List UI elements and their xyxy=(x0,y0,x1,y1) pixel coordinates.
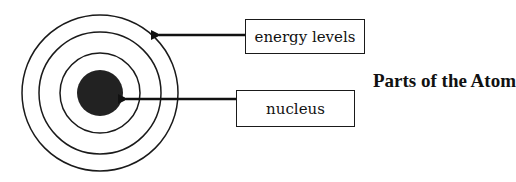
nucleus-shape xyxy=(77,70,123,116)
diagram-title: Parts of the Atom xyxy=(373,70,516,92)
energy-levels-label: energy levels xyxy=(255,28,356,46)
nucleus-label: nucleus xyxy=(266,100,325,118)
nucleus-label-box: nucleus xyxy=(236,90,355,127)
energy-levels-label-box: energy levels xyxy=(245,19,365,54)
